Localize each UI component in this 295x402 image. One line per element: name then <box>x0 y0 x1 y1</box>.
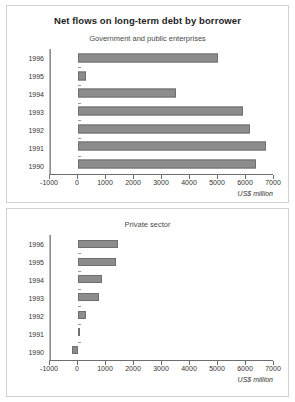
y-axis-tick-label: 1996 <box>7 49 49 67</box>
bar <box>78 124 250 133</box>
x-axis-tick-label: 7000 <box>265 365 281 372</box>
x-axis-unit-government: US$ million <box>238 190 273 197</box>
bar <box>78 293 99 301</box>
x-axis-unit-private: US$ million <box>238 376 273 383</box>
bar-row <box>50 341 273 359</box>
bar-row <box>50 120 273 138</box>
bar-row <box>50 67 273 85</box>
plot-wrap-government: 1996199519941993199219911990 -1000010002… <box>7 49 288 199</box>
bar-row <box>50 288 273 306</box>
bar <box>78 142 266 151</box>
x-axis-tick-label: 0 <box>75 365 79 372</box>
x-axis-tick-label: 3000 <box>153 179 169 186</box>
y-axis-tick-label: 1992 <box>7 121 49 139</box>
bar <box>78 53 218 62</box>
x-axis-tick-label: 7000 <box>265 179 281 186</box>
x-axis-tick-label: 4000 <box>181 179 197 186</box>
x-axis-tick-label: 1000 <box>97 179 113 186</box>
y-axis-tick-label: 1993 <box>7 103 49 121</box>
bar-row <box>50 270 273 288</box>
bar-row <box>50 102 273 120</box>
chart-subtitle-private: Private sector <box>7 220 288 229</box>
chart-subtitle-government: Government and public enterprises <box>7 34 288 43</box>
plot-area-private <box>49 235 273 361</box>
x-axis-tick-label: 4000 <box>181 365 197 372</box>
y-axis-tick-label: 1992 <box>7 307 49 325</box>
x-axis-tick-label: 5000 <box>209 365 225 372</box>
bar-row <box>50 306 273 324</box>
bar-series-private <box>50 235 273 359</box>
y-axis-tick-label: 1996 <box>7 235 49 253</box>
y-axis-tick-label: 1991 <box>7 325 49 343</box>
x-axis-tick-label: 6000 <box>237 179 253 186</box>
y-axis-tick-label: 1991 <box>7 139 49 157</box>
bar <box>78 328 80 336</box>
bar-row <box>50 324 273 342</box>
bar-row <box>50 49 273 67</box>
x-axis-tick-label: 5000 <box>209 179 225 186</box>
y-axis-tick-label: 1993 <box>7 289 49 307</box>
bar-row <box>50 155 273 173</box>
bar <box>78 107 243 116</box>
x-axis-tick-label: -1000 <box>40 365 58 372</box>
bar-series-government <box>50 49 273 173</box>
x-axis-tick-label: 6000 <box>237 365 253 372</box>
figure-title: Net flows on long-term debt by borrower <box>7 15 288 26</box>
y-axis-tick-label: 1994 <box>7 271 49 289</box>
bar <box>78 71 86 80</box>
bar-row <box>50 253 273 271</box>
y-axis-tick-label: 1994 <box>7 85 49 103</box>
x-axis-tick-label: 2000 <box>125 179 141 186</box>
bar <box>78 160 256 169</box>
x-axis-tick-label: -1000 <box>40 179 58 186</box>
y-axis-tick-label: 1990 <box>7 343 49 361</box>
bar-row <box>50 138 273 156</box>
bar <box>78 275 102 283</box>
bar-row <box>50 84 273 102</box>
plot-wrap-private: 1996199519941993199219911990 -1000010002… <box>7 235 288 385</box>
figure-container: Net flows on long-term debt by borrower … <box>0 0 295 402</box>
x-axis-tick-label: 1000 <box>97 365 113 372</box>
bar <box>72 346 78 354</box>
bar <box>78 258 116 266</box>
y-axis-labels-private: 1996199519941993199219911990 <box>7 235 49 361</box>
y-axis-tick-label: 1995 <box>7 253 49 271</box>
y-axis-tick-label: 1990 <box>7 157 49 175</box>
x-axis-tick-label: 0 <box>75 179 79 186</box>
plot-area-government <box>49 49 273 175</box>
chart-panel-government: Net flows on long-term debt by borrower … <box>6 5 289 203</box>
bar <box>78 240 118 248</box>
y-axis-tick-label: 1995 <box>7 67 49 85</box>
bar-row <box>50 235 273 253</box>
x-axis-tick-label: 3000 <box>153 365 169 372</box>
chart-panel-private: Private sector 1996199519941993199219911… <box>6 208 289 397</box>
x-axis-tick-label: 2000 <box>125 365 141 372</box>
bar <box>78 89 176 98</box>
bar <box>78 311 86 319</box>
y-axis-labels-government: 1996199519941993199219911990 <box>7 49 49 175</box>
